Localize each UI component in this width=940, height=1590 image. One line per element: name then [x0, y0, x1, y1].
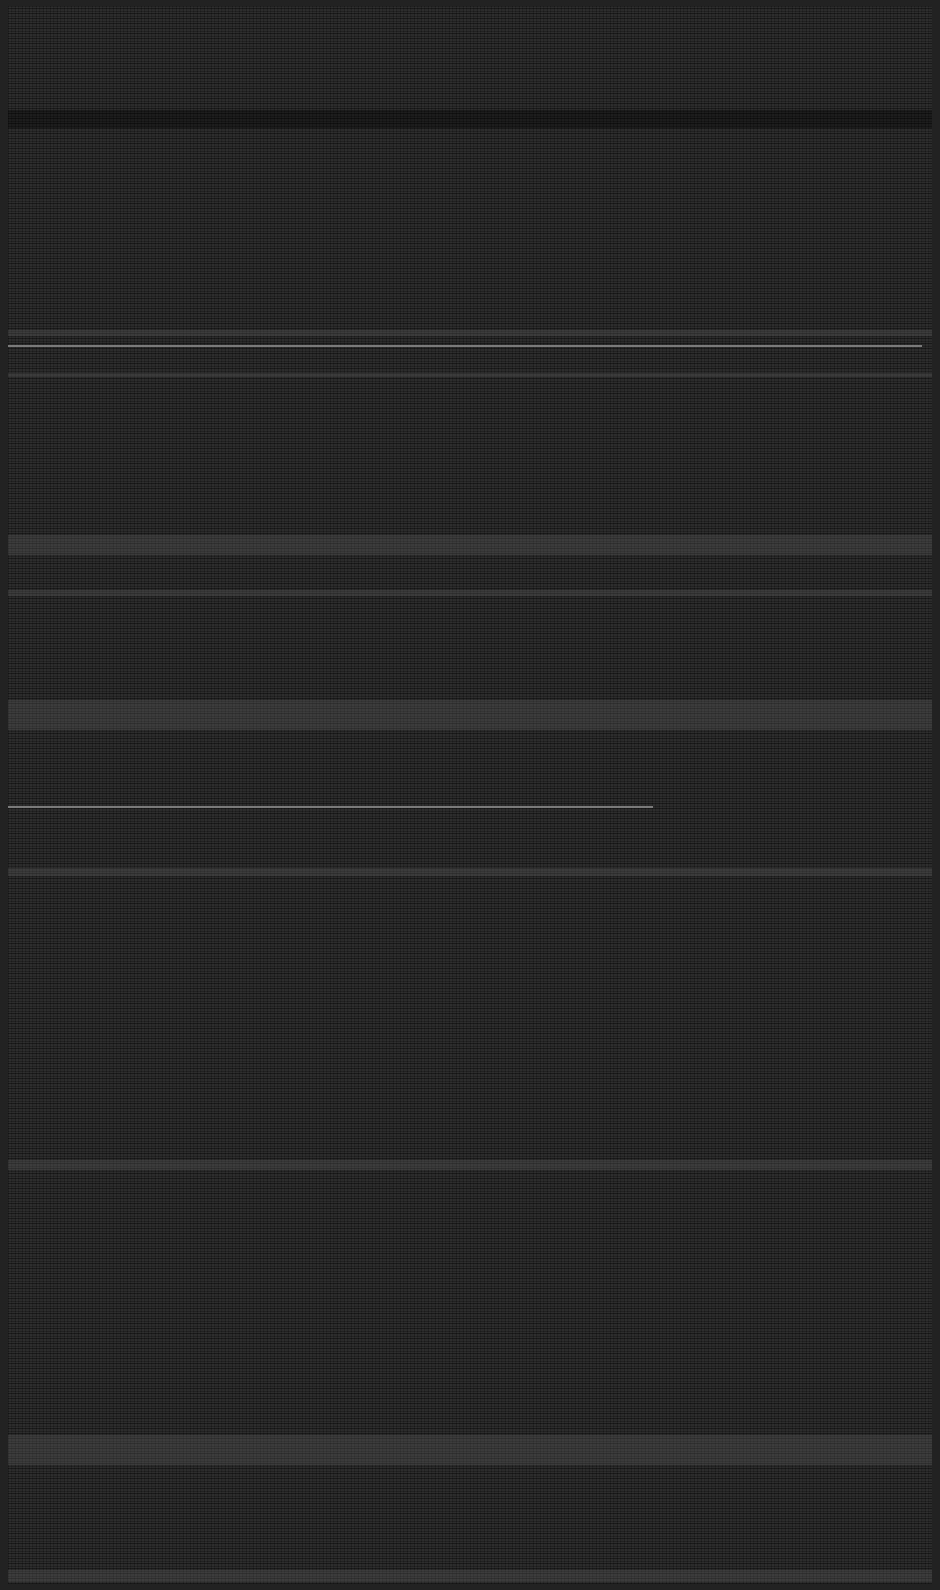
noise-field	[8, 6, 932, 1584]
streak-band	[8, 535, 932, 555]
scanline	[8, 345, 922, 347]
glitched-frame	[0, 0, 940, 1590]
streak-band	[8, 330, 932, 336]
streak-band	[8, 373, 932, 377]
streak-band	[8, 110, 932, 128]
streak-band	[8, 1435, 932, 1465]
scanline	[8, 806, 653, 808]
streak-band	[8, 1570, 932, 1582]
streak-band	[8, 868, 932, 876]
streak-band	[8, 590, 932, 596]
streak-band	[8, 700, 932, 730]
streak-band	[8, 1160, 932, 1170]
